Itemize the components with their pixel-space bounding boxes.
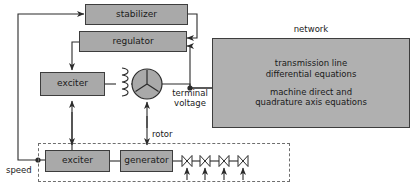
terminal-voltage-label-line2: voltage <box>168 98 212 108</box>
block-exciter-top[interactable]: exciter <box>40 72 105 96</box>
network-line-2: differential equations <box>266 69 357 80</box>
wire-regulator-to-exciter-top <box>72 42 79 70</box>
block-exciter-bottom-label: exciter <box>62 155 93 166</box>
field-winding-coil-symbol <box>122 68 128 96</box>
wire-terminal-voltage-to-regulator <box>187 46 190 88</box>
network-line-1: transmission line <box>275 58 347 69</box>
network-line-3: machine direct and <box>270 87 352 98</box>
block-regulator[interactable]: regulator <box>79 31 187 52</box>
block-regulator-label: regulator <box>112 36 153 47</box>
network-title-label: network <box>287 24 335 34</box>
speed-label: speed <box>6 165 32 175</box>
terminal-voltage-label-line1: terminal <box>168 88 212 98</box>
block-network[interactable]: transmission line differential equations… <box>212 38 410 128</box>
rotor-label: rotor <box>152 129 173 139</box>
wire-stabilizer-to-regulator <box>187 14 197 38</box>
block-stabilizer[interactable]: stabilizer <box>85 4 188 25</box>
block-generator-label: generator <box>124 155 168 166</box>
block-diagram-canvas: stabilizer regulator exciter exciter gen… <box>0 0 420 195</box>
network-line-4: quadrature axis equations <box>255 97 367 108</box>
block-stabilizer-label: stabilizer <box>116 9 157 20</box>
block-exciter-top-label: exciter <box>57 78 88 89</box>
block-generator[interactable]: generator <box>120 150 173 172</box>
block-exciter-bottom[interactable]: exciter <box>45 150 110 172</box>
